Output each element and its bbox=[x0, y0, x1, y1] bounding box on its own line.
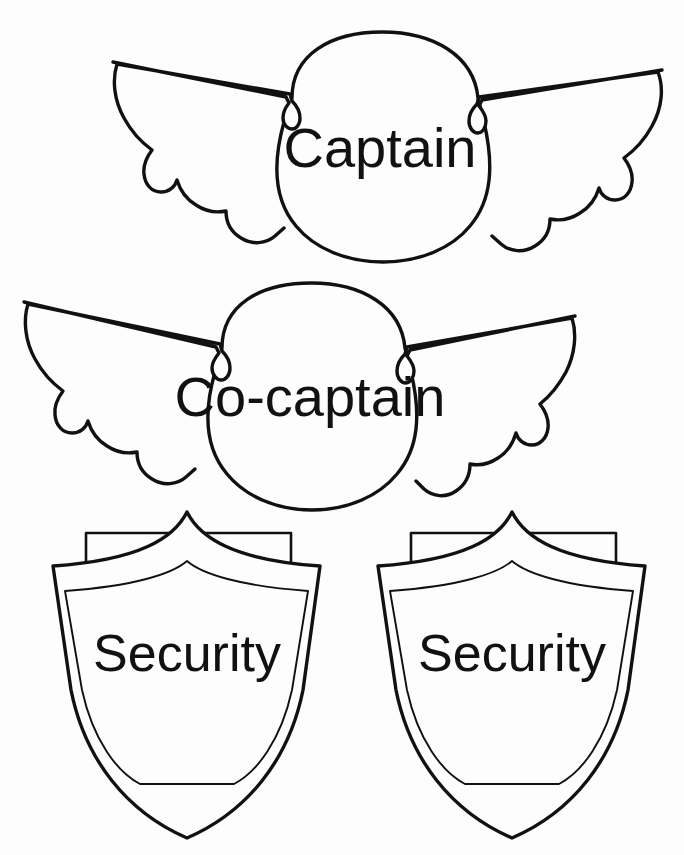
badge-security-right[interactable]: Security bbox=[378, 512, 645, 838]
captain-right-wing bbox=[469, 70, 662, 251]
badge-template-sheet: Captain Co-captain Security bbox=[0, 0, 684, 855]
co-captain-label: Co-captain bbox=[175, 365, 446, 428]
badge-artwork: Captain Co-captain Security bbox=[0, 0, 684, 855]
captain-label: Captain bbox=[283, 116, 476, 179]
captain-left-wing bbox=[113, 62, 300, 243]
badge-security-left[interactable]: Security bbox=[53, 512, 320, 838]
security-right-label: Security bbox=[418, 624, 606, 682]
badge-co-captain[interactable]: Co-captain bbox=[24, 283, 575, 510]
security-left-label: Security bbox=[93, 624, 281, 682]
badge-captain[interactable]: Captain bbox=[113, 32, 662, 262]
